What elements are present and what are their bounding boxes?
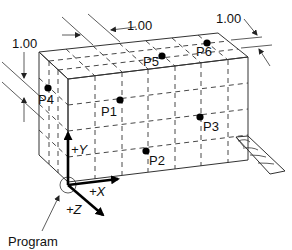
dimension-top-middle: 1.00	[62, 14, 152, 45]
svg-text:P5: P5	[143, 54, 159, 69]
probe-point-p3: P3	[196, 113, 219, 134]
svg-text:P2: P2	[149, 153, 165, 168]
svg-text:P3: P3	[203, 119, 219, 134]
probe-point-p6: P6	[196, 39, 212, 59]
dimension-left: 1.00	[2, 36, 44, 122]
probe-stylus-icon	[236, 136, 285, 174]
dimension-top-middle-label: 1.00	[127, 18, 152, 33]
dimension-top-right-label: 1.00	[216, 11, 241, 26]
part-diagram: 1.00 1.00 1.00 P1 P2 P3 P4 P5 P6	[0, 0, 292, 250]
probe-point-p1: P1	[101, 96, 124, 119]
axis-label-x: +X	[89, 184, 107, 199]
program-label: Program	[8, 234, 58, 249]
program-origin-label: Program	[8, 196, 59, 249]
svg-text:P1: P1	[101, 104, 117, 119]
probe-point-p5: P5	[143, 52, 166, 69]
svg-text:P4: P4	[38, 92, 54, 107]
dimension-left-label: 1.00	[12, 36, 37, 51]
axis-label-y: +Y	[71, 142, 89, 157]
coordinate-axes: +Y +X +Z	[60, 133, 118, 217]
axis-label-z: +Z	[66, 202, 83, 217]
svg-text:P6: P6	[196, 44, 212, 59]
probe-point-p2: P2	[142, 147, 165, 168]
probe-point-p4: P4	[38, 84, 54, 107]
